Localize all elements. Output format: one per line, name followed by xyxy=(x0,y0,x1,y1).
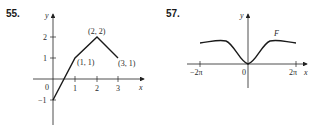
tick-label-origin: 0 xyxy=(45,83,49,92)
point-label-1-1: (1, 1) xyxy=(77,58,95,67)
tick-label-x3: 3 xyxy=(116,84,120,93)
tick-label-2pi: 2π xyxy=(289,68,297,77)
tick-label-x1: 1 xyxy=(73,84,77,93)
x-axis-label: x xyxy=(138,83,143,92)
piecewise-graph-line xyxy=(53,37,118,100)
problem-57-graph: y x −2π 0 2π F xyxy=(158,0,317,131)
tick-label-y2: 2 xyxy=(43,33,47,42)
tick-label-origin: 0 xyxy=(242,68,246,77)
problem-55-graph: y x 2 1 0 −1 1 2 3 (1, 1) (2, 2) (3, 1) xyxy=(0,0,158,131)
x-axis-label: x xyxy=(303,68,308,77)
point-label-3-1: (3, 1) xyxy=(118,59,136,68)
y-axis-label: y xyxy=(44,11,49,20)
problem-55-panel: 55. y x 2 1 0 −1 1 2 3 (1, 1) (2, 2) (3,… xyxy=(0,0,158,131)
problem-57-panel: 57. y x −2π 0 2π F xyxy=(158,0,317,131)
y-axis-label: y xyxy=(239,11,244,20)
point-label-2-2: (2, 2) xyxy=(88,27,106,36)
tick-label-y1: 1 xyxy=(43,54,47,63)
tick-label-neg-2pi: −2π xyxy=(190,68,203,77)
tick-label-ym1: −1 xyxy=(38,96,47,105)
tick-label-x2: 2 xyxy=(95,84,99,93)
curve-label-F: F xyxy=(273,29,279,38)
